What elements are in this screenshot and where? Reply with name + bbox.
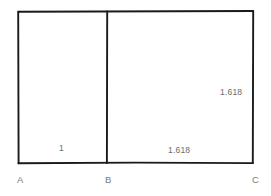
dimension-label-right-height: 1.618: [220, 88, 242, 97]
vertex-label-b: B: [105, 175, 112, 185]
dimension-label-square-width: 1: [59, 144, 64, 153]
rectangle-bottom-edge: [18, 163, 253, 164]
vertex-label-a: A: [17, 175, 24, 185]
rectangle-top-edge: [19, 11, 254, 12]
diagram-canvas: [0, 0, 271, 196]
golden-ratio-diagram: 1 1.618 1.618 A B C: [0, 0, 271, 196]
dimension-label-base-long-segment: 1.618: [168, 146, 190, 155]
vertex-label-c: C: [252, 175, 259, 185]
